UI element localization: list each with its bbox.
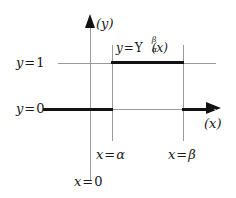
label-y-equals-0: y=0 bbox=[16, 102, 45, 115]
label-alpha-op: = bbox=[103, 147, 116, 162]
label-y-equals-1: y=1 bbox=[16, 56, 45, 69]
step-function-diagram: (y) (x) y=1 y=0 x=α x=β x=0 y=Υβα(x) bbox=[0, 0, 236, 198]
label-y1-op: = bbox=[23, 55, 36, 70]
reference-line-x-equals-alpha bbox=[112, 45, 113, 141]
label-beta-value: β bbox=[188, 147, 196, 162]
function-lhs: y bbox=[116, 41, 123, 55]
y-axis-line bbox=[90, 26, 91, 181]
y-axis-label: (y) bbox=[96, 17, 114, 30]
function-op: = bbox=[123, 41, 135, 55]
graph-segment-plateau-one bbox=[111, 61, 184, 64]
label-x0-value: 0 bbox=[94, 174, 102, 189]
x-axis-label: (x) bbox=[204, 117, 221, 130]
reference-line-x-equals-beta bbox=[183, 45, 184, 141]
function-subscript: α bbox=[152, 46, 157, 54]
label-x0-op: = bbox=[81, 174, 94, 189]
graph-segment-right-zero bbox=[182, 108, 214, 111]
graph-segment-left-zero bbox=[43, 108, 113, 111]
function-superscript: β bbox=[152, 36, 157, 44]
label-x-equals-beta: x=β bbox=[168, 148, 196, 161]
up-arrow-icon bbox=[85, 14, 95, 28]
label-alpha-value: α bbox=[116, 147, 125, 162]
label-x-equals-alpha: x=α bbox=[96, 148, 125, 161]
label-beta-op: = bbox=[175, 147, 188, 162]
label-x-equals-0: x=0 bbox=[74, 175, 103, 188]
label-y0-op: = bbox=[23, 101, 36, 116]
label-y0-value: 0 bbox=[36, 101, 44, 116]
function-symbol-upsilon: Υβα bbox=[135, 41, 152, 55]
function-expression-label: y=Υβα(x) bbox=[116, 42, 168, 54]
label-y1-value: 1 bbox=[36, 55, 44, 70]
upsilon-glyph: Υ bbox=[135, 41, 143, 55]
